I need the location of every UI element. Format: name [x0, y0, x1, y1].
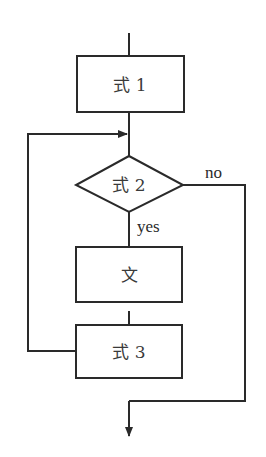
no-label: no: [205, 163, 222, 182]
node-expr2-label: 式 2: [112, 175, 145, 195]
node-expr2: 式 2: [76, 156, 183, 212]
node-expr3-label: 式 3: [112, 342, 145, 362]
node-expr1: 式 1: [77, 56, 184, 112]
flowchart-canvas: 式 1 式 2 no yes 文 式 3: [0, 0, 266, 457]
node-expr1-label: 式 1: [113, 75, 146, 95]
node-stmt: 文: [76, 247, 182, 302]
node-stmt-label: 文: [121, 265, 138, 285]
yes-label: yes: [137, 217, 160, 236]
node-expr3: 式 3: [76, 325, 182, 378]
